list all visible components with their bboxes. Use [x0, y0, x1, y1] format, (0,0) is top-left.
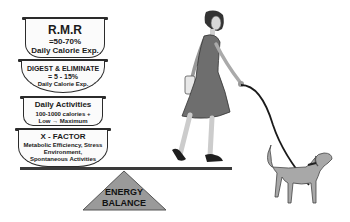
- dog-on-leash-icon: [0, 0, 350, 222]
